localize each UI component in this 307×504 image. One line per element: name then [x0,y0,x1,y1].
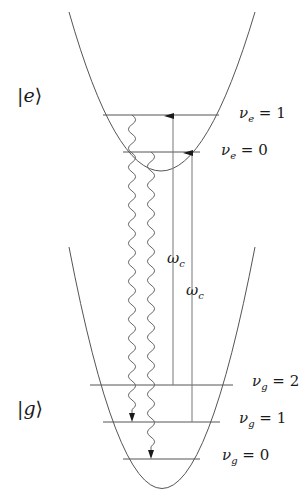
level-vg2-label: νg = 2 [252,372,299,392]
ground-state-label: |g⟩ [17,397,43,419]
emission-wave-1 [128,115,135,413]
emission-wave-2 [147,152,154,450]
level-ve0-label: νe = 0 [221,141,268,161]
excited-state-label: |e⟩ [17,84,42,106]
level-vg1-label: νg = 1 [239,409,286,429]
pump-1-frequency-label: ωc [167,249,185,269]
pump-2-frequency-label: ωc [186,281,204,301]
emission-arrowhead-2 [148,450,154,459]
level-ve1-label: νe = 1 [239,104,286,124]
level-vg0-label: νg = 0 [222,446,269,466]
emission-arrowhead-1 [129,413,135,422]
